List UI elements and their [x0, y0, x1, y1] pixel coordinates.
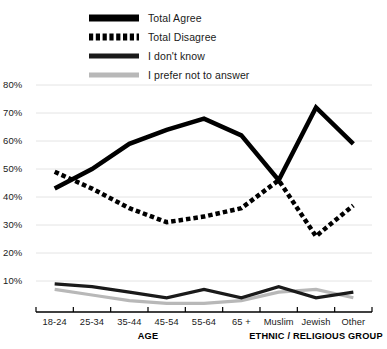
- x-axis-tick-label-other: Other: [327, 317, 379, 327]
- axis-lines: [36, 307, 372, 312]
- group-label-age: AGE: [58, 331, 238, 341]
- data-series: [55, 107, 354, 303]
- series-line-total-disagree: [55, 172, 354, 236]
- group-label-ethnic-religious-group: ETHNIC / RELIGIOUS GROUP: [226, 331, 387, 341]
- series-line-total-agree: [55, 107, 354, 188]
